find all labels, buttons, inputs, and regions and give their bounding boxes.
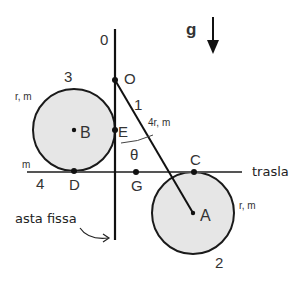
point-d: [71, 168, 77, 174]
slider-caption: trasla: [252, 164, 289, 179]
curved-arrow-icon: [80, 228, 108, 238]
point-o: [112, 77, 118, 83]
point-d-label: D: [69, 176, 80, 193]
point-g-label: G: [131, 177, 143, 194]
rod-oa: [115, 80, 193, 213]
point-b-label: B: [80, 124, 91, 141]
point-c-label: C: [190, 151, 201, 168]
point-b: [72, 128, 76, 132]
disk-a-props: r, m: [239, 200, 256, 211]
point-o-label: O: [124, 70, 136, 87]
disk-b-number: 3: [64, 68, 72, 85]
rod-props: 4r, m: [148, 117, 170, 128]
mechanism-diagram: g 0 O 1 4r, m 3 r, m B E θ m 4 D G C tra…: [0, 0, 301, 281]
slider-number: 4: [36, 175, 44, 192]
point-e-label: E: [118, 123, 128, 140]
gravity-arrow-icon: [207, 40, 219, 54]
point-a-label: A: [200, 207, 211, 224]
rod-number: 1: [134, 96, 142, 113]
angle-label: θ: [130, 146, 138, 163]
point-a: [191, 211, 195, 215]
disk-a-number: 2: [215, 254, 223, 271]
fixed-rod-number: 0: [100, 31, 108, 48]
fixed-rod-caption: asta fissa: [15, 211, 77, 226]
point-c: [191, 169, 197, 175]
gravity-label: g: [186, 20, 196, 39]
point-g: [133, 169, 139, 175]
slider-props: m: [22, 159, 30, 170]
disk-b-props: r, m: [15, 91, 32, 102]
